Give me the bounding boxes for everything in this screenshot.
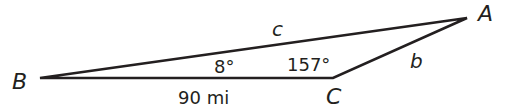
triangle-svg: B A C c b 90 mi 8° 157° — [0, 0, 510, 112]
side-label-a: 90 mi — [178, 87, 229, 108]
vertex-label-a: A — [476, 1, 493, 26]
angle-label-c: 157° — [287, 54, 330, 75]
triangle-abc — [40, 18, 467, 78]
vertex-label-c: C — [326, 84, 342, 109]
side-label-c: c — [272, 17, 283, 41]
side-label-b: b — [410, 49, 423, 73]
triangle-diagram: B A C c b 90 mi 8° 157° — [0, 0, 510, 112]
angle-label-b: 8° — [214, 56, 234, 77]
vertex-label-b: B — [12, 69, 27, 94]
